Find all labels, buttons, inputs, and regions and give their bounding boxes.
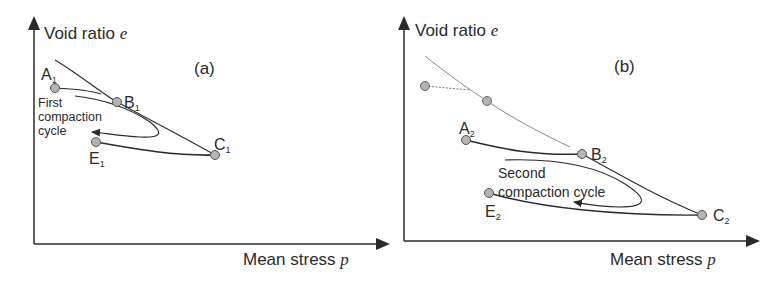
panel-a: Void ratio e Mean stress p (a) A1 B1 C1 … xyxy=(28,16,390,269)
reload-curve-a2-b2 xyxy=(466,140,582,154)
point-a1-label: A1 xyxy=(41,66,57,85)
point-a2-label: A2 xyxy=(459,120,475,139)
first-cycle-b-marker xyxy=(483,97,492,106)
axes-a xyxy=(28,16,390,250)
point-e2-marker xyxy=(485,189,494,198)
first-cycle-a-marker xyxy=(421,82,430,91)
panel-tag: (a) xyxy=(194,59,215,78)
compaction-diagram: Void ratio e Mean stress p (a) A1 B1 C1 … xyxy=(0,0,780,284)
x-axis-arrow-icon xyxy=(746,235,760,247)
virgin-compression-line-faded xyxy=(425,56,570,147)
svg-text:Second: Second xyxy=(498,165,545,181)
point-b1-marker xyxy=(113,98,122,107)
point-c1-label: C1 xyxy=(214,136,231,155)
svg-text:compaction cycle: compaction cycle xyxy=(498,184,606,200)
panel-b: Void ratio e Mean stress p (b) A2 B2 C2 … xyxy=(398,16,760,269)
y-axis-arrow-icon xyxy=(28,16,40,30)
point-c2-label: C2 xyxy=(713,207,730,226)
cycle-label: Second compaction cycle xyxy=(498,165,606,200)
y-axis-label: Void ratio e xyxy=(44,24,128,43)
svg-text:compaction: compaction xyxy=(38,110,102,124)
panel-tag: (b) xyxy=(614,57,635,76)
point-b2-marker xyxy=(578,150,587,159)
first-reload-dotted xyxy=(425,86,470,90)
x-axis-label: Mean stress p xyxy=(243,250,349,269)
x-axis-arrow-icon xyxy=(376,238,390,250)
point-c2-marker xyxy=(698,211,707,220)
x-axis-label: Mean stress p xyxy=(610,250,716,269)
y-axis-label: Void ratio e xyxy=(415,21,499,40)
point-e1-marker xyxy=(92,138,101,147)
reload-curve xyxy=(55,88,101,94)
unload-curve xyxy=(96,142,215,155)
point-e2-label: E2 xyxy=(485,203,501,222)
y-axis-arrow-icon xyxy=(398,16,410,30)
point-b2-label: B2 xyxy=(591,146,607,165)
point-e1-label: E1 xyxy=(89,150,105,169)
point-b1-label: B1 xyxy=(124,94,140,113)
svg-text:First: First xyxy=(38,96,63,110)
svg-text:cycle: cycle xyxy=(38,124,67,138)
